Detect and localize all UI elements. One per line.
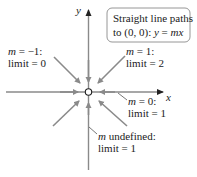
slope-neg-one-m-label: m = −1: xyxy=(8,45,42,57)
slope-one-m-label: m = 1: xyxy=(126,45,154,57)
slope-undefined-m-label: m undefined: xyxy=(98,130,156,142)
title-line-1: Straight line paths xyxy=(113,12,193,24)
x-axis-label: x xyxy=(165,91,171,103)
limit-paths-diagram: x y Straight line paths to (0, 0): y = m… xyxy=(0,0,197,177)
y-axis-label: y xyxy=(75,4,81,16)
slope-one-limit-label: limit = 2 xyxy=(126,57,164,69)
arrow-slope-one-upper xyxy=(98,56,125,83)
title-line-2: to (0, 0): y = mx xyxy=(113,26,184,39)
slope-zero-m-label: m = 0: xyxy=(128,95,156,107)
slope-zero-limit-label: limit = 1 xyxy=(128,107,166,119)
slope-undefined-limit-label: limit = 1 xyxy=(98,142,136,154)
origin-open-circle xyxy=(85,89,91,95)
arrow-slope-neg-one-lower xyxy=(99,101,127,126)
slope-undefined-leader-line xyxy=(89,127,97,134)
slope-zero-leader-line xyxy=(118,93,127,100)
arrow-slope-neg-one-upper xyxy=(54,57,80,83)
slope-neg-one-limit-label: limit = 0 xyxy=(8,57,46,69)
arrow-slope-one-lower xyxy=(53,101,79,126)
